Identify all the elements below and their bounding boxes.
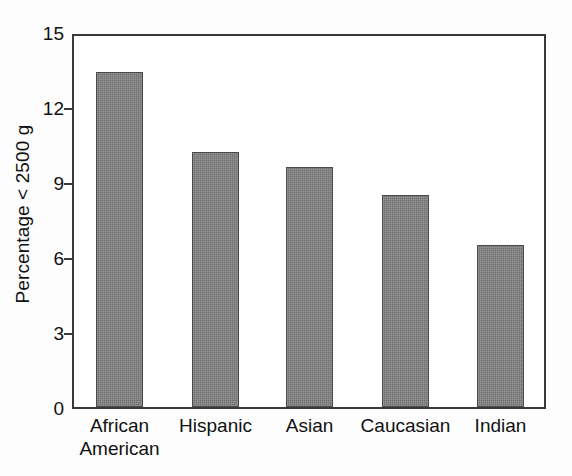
y-tick-label: 15 (0, 23, 72, 45)
x-category-label: Indian (421, 414, 572, 437)
y-tick-label: 6 (0, 248, 72, 270)
y-axis-title: Percentage < 2500 g (10, 24, 36, 404)
bar (96, 72, 143, 407)
y-tick-label: 12 (0, 98, 72, 120)
y-tick-label: 9 (0, 173, 72, 195)
bar (286, 167, 333, 407)
y-tick-label: 3 (0, 323, 72, 345)
bar-chart-figure: Percentage < 2500 g 03691215 African Ame… (0, 0, 572, 476)
bar (477, 245, 524, 408)
bar (192, 152, 239, 407)
plot-area (72, 34, 546, 409)
bar (382, 195, 429, 408)
